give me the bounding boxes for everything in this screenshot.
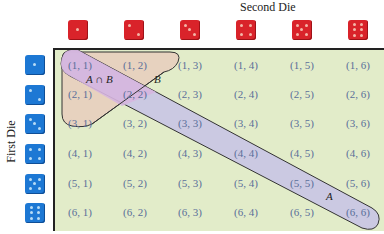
outcome-cell: (4, 6) — [346, 147, 370, 159]
outcome-cell: (3, 4) — [234, 117, 258, 129]
outcome-cell: (2, 3) — [178, 88, 202, 100]
outcome-cell: (6, 2) — [123, 206, 147, 218]
outcome-cell: (3, 1) — [68, 117, 92, 129]
outcome-cell: (5, 2) — [123, 177, 147, 189]
outcome-cell: (3, 3) — [178, 117, 202, 129]
outcome-cell: (6, 3) — [178, 206, 202, 218]
second-die-face-3 — [180, 20, 200, 40]
outcome-cell: (3, 5) — [290, 117, 314, 129]
outcome-cell: (5, 4) — [234, 177, 258, 189]
second-die-face-6 — [348, 20, 368, 40]
outcome-cell: (2, 2) — [123, 88, 147, 100]
outcome-cell: (1, 4) — [234, 59, 258, 71]
outcome-cell: (4, 2) — [123, 147, 147, 159]
grid-left-border — [53, 48, 55, 231]
outcome-cell: (1, 2) — [123, 59, 147, 71]
second-die-face-1 — [68, 20, 88, 40]
outcome-cell: (5, 5) — [290, 177, 314, 189]
outcome-cell: (2, 1) — [68, 88, 92, 100]
outcome-cell: (1, 1) — [68, 59, 92, 71]
outcome-cell: (5, 3) — [178, 177, 202, 189]
first-die-face-2 — [25, 85, 45, 105]
outcome-cell: (5, 1) — [68, 177, 92, 189]
first-die-face-1 — [25, 55, 45, 75]
outcome-cell: (4, 4) — [234, 147, 258, 159]
outcome-cell: (4, 1) — [68, 147, 92, 159]
event-b-label: B — [154, 73, 161, 85]
outcome-cell: (1, 5) — [290, 59, 314, 71]
second-die-face-2 — [124, 20, 144, 40]
outcome-cell: (1, 3) — [178, 59, 202, 71]
first-die-face-4 — [25, 144, 45, 164]
first-die-face-3 — [25, 114, 45, 134]
outcome-cell: (6, 5) — [290, 206, 314, 218]
outcome-cell: (4, 3) — [178, 147, 202, 159]
second-die-face-4 — [236, 20, 256, 40]
outcome-cell: (3, 6) — [346, 117, 370, 129]
grid-top-border — [53, 48, 384, 50]
outcome-cell: (6, 6) — [346, 206, 370, 218]
second-die-face-5 — [292, 20, 312, 40]
first-die-face-5 — [25, 174, 45, 194]
event-a-and-b-label: A ∩ B — [86, 73, 113, 85]
outcome-cell: (2, 6) — [346, 88, 370, 100]
event-a-label: A — [326, 190, 333, 202]
outcome-cell: (2, 4) — [234, 88, 258, 100]
outcome-cell: (2, 5) — [290, 88, 314, 100]
outcome-cell: (6, 1) — [68, 206, 92, 218]
outcome-cell: (4, 5) — [290, 147, 314, 159]
outcome-cell: (6, 4) — [234, 206, 258, 218]
outcome-cell: (5, 6) — [346, 177, 370, 189]
first-die-face-6 — [25, 203, 45, 223]
outcome-cell: (3, 2) — [123, 117, 147, 129]
pip — [76, 28, 79, 31]
outcome-cell: (1, 6) — [346, 59, 370, 71]
